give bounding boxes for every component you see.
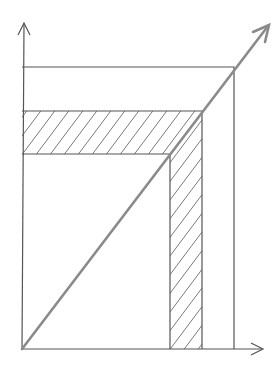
- diagram-canvas: [0, 0, 279, 366]
- hatched-region: [0, 0, 279, 360]
- x-axis: [22, 343, 263, 355]
- diagonal-arrow: [22, 25, 269, 349]
- y-axis: [18, 23, 30, 349]
